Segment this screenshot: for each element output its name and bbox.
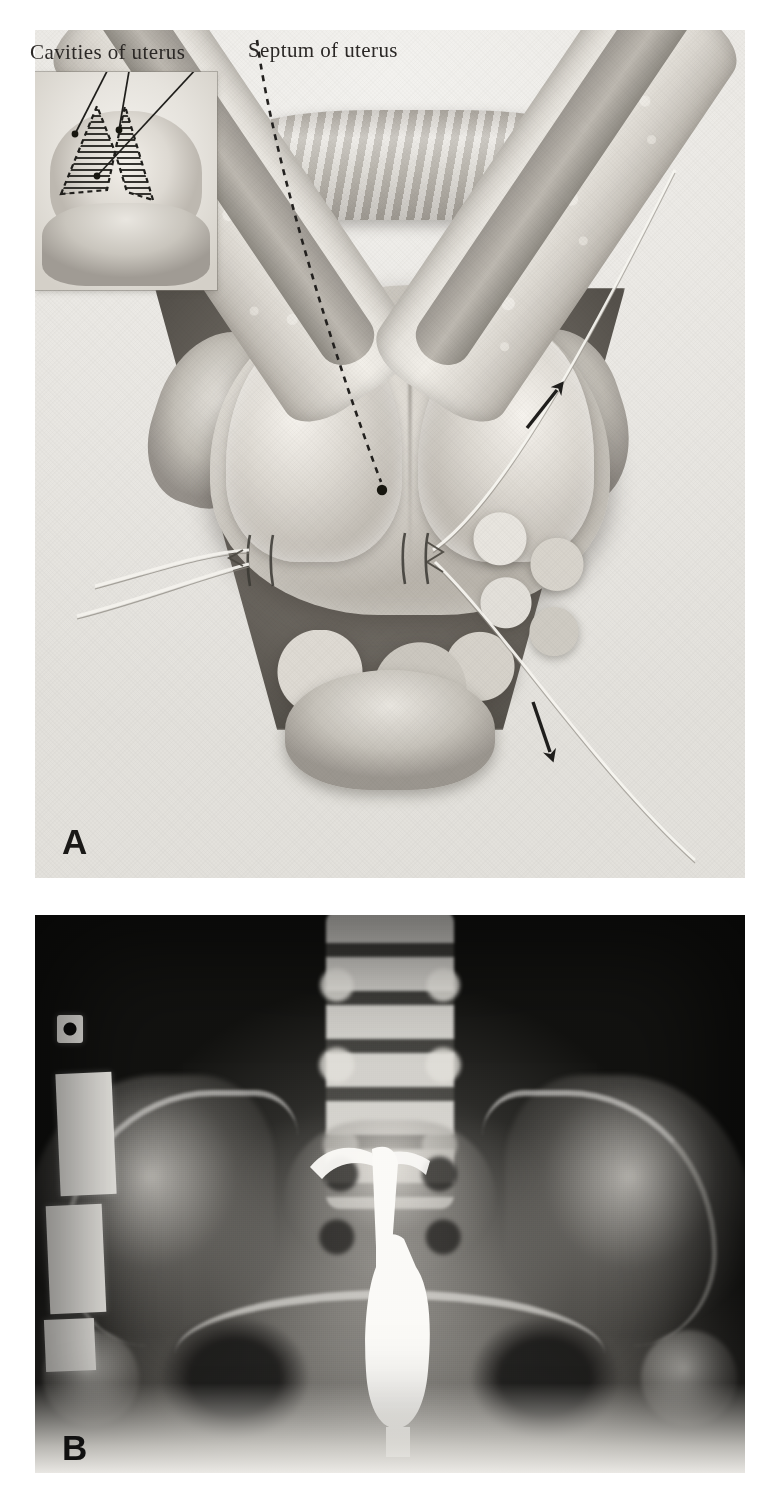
- panel-a-illustration: [35, 30, 745, 878]
- uterine-cavity-inset: [35, 72, 217, 290]
- arrow-lower: [533, 702, 550, 752]
- figure-plate: Cavities of uterus Septum of uterus A: [0, 0, 777, 1500]
- panel-letter-b: B: [62, 1428, 88, 1468]
- inset-dot-left: [72, 131, 79, 138]
- label-cavities-of-uterus: Cavities of uterus: [30, 40, 185, 65]
- inset-vector-overlay: [35, 72, 217, 290]
- suture-thread-left: [77, 550, 249, 616]
- radiograph-bottom-glow: [35, 1383, 745, 1473]
- suture-thread-right-shadow: [433, 173, 695, 863]
- suture-thread-right: [433, 170, 695, 860]
- suture-knot: [229, 542, 443, 572]
- leader-septum: [257, 40, 387, 495]
- cavity-left-hatched: [61, 106, 115, 194]
- fundal-stay-sutures: [248, 533, 428, 586]
- inset-dot-septum: [94, 173, 101, 180]
- panel-letter-a: A: [62, 822, 88, 862]
- inset-dot-right: [116, 127, 123, 134]
- arrow-upper: [527, 390, 557, 428]
- label-septum-of-uterus: Septum of uterus: [248, 38, 398, 63]
- panel-b-radiograph: [35, 915, 745, 1473]
